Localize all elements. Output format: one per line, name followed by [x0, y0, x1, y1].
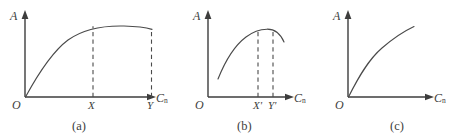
panel-b-plot	[160, 0, 310, 140]
curve-c	[349, 27, 415, 98]
y-axis-arrowhead-a	[22, 10, 29, 19]
x-axis-label-c: Cn	[434, 92, 446, 105]
y-axis-label-a: A	[10, 10, 17, 22]
curve-b	[218, 29, 284, 79]
tick-label-a-y: Y	[147, 100, 153, 111]
x-axis-label-b-text: C	[294, 91, 302, 105]
x-axis-arrowhead-b	[285, 94, 294, 100]
panel-a: A Cn O X Y (a)	[0, 0, 160, 140]
figure-root: A Cn O X Y (a) A Cn O X' Y' (b)	[0, 0, 466, 140]
panel-c: A Cn O (c)	[310, 0, 466, 140]
x-axis-label-b-sub: n	[302, 96, 306, 105]
x-axis-label-b: Cn	[294, 92, 306, 105]
origin-label-a: O	[12, 99, 21, 111]
x-axis-label-c-sub: n	[442, 96, 446, 105]
caption-a: (a)	[72, 120, 86, 133]
y-axis-label-b: A	[193, 10, 200, 22]
origin-label-c: O	[335, 99, 344, 111]
tick-label-b-x: X'	[253, 100, 262, 111]
origin-label-b: O	[195, 99, 204, 111]
x-axis-arrowhead-c	[425, 94, 434, 100]
tick-label-b-y: Y'	[268, 100, 276, 111]
tick-label-a-x: X	[88, 100, 95, 111]
panel-b: A Cn O X' Y' (b)	[160, 0, 310, 140]
y-axis-arrowhead-c	[345, 10, 352, 19]
curve-a	[26, 26, 153, 97]
y-axis-label-c: A	[333, 10, 340, 22]
y-axis-arrowhead-b	[205, 10, 212, 19]
caption-b: (b)	[237, 120, 252, 133]
x-axis-label-c-text: C	[434, 91, 442, 105]
caption-c: (c)	[390, 120, 404, 133]
